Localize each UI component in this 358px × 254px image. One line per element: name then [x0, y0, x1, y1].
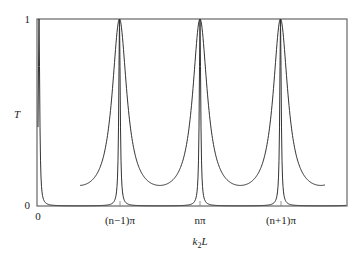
y-tick-0: 0: [25, 199, 31, 211]
x-tick-n-minus-1-pi: (n−1)π: [105, 214, 136, 227]
y-tick-1: 1: [25, 13, 31, 25]
x-tick-n-plus-1-pi: (n+1)π: [266, 214, 297, 227]
y-axis-label: T: [14, 108, 21, 120]
narrow-resonance-curve: [38, 19, 346, 206]
x-tick-n-pi: nπ: [194, 214, 206, 226]
x-tick-origin: 0: [35, 210, 41, 222]
broad-resonance-curve: [80, 19, 325, 185]
x-axis-label: k2L: [192, 235, 207, 250]
transmission-chart: 1 0 T 0 (n−1)π nπ (n+1)π k2L: [0, 0, 358, 254]
plot-frame: [37, 19, 347, 206]
